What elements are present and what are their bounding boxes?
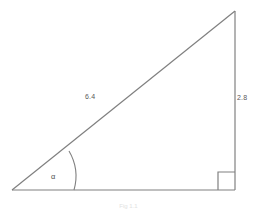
angle-arc-icon — [69, 151, 76, 190]
triangle-figure: 6.4 2.8 α Fig 1.1 — [0, 0, 257, 213]
angle-alpha-label: α — [51, 173, 56, 181]
hypotenuse-length-label: 6.4 — [85, 93, 95, 100]
opposite-side-length-label: 2.8 — [237, 94, 247, 101]
triangle-diagram-svg — [0, 0, 257, 213]
triangle-side-hypotenuse — [12, 11, 235, 190]
figure-caption: Fig 1.1 — [0, 203, 257, 209]
right-angle-marker-icon — [218, 172, 235, 190]
